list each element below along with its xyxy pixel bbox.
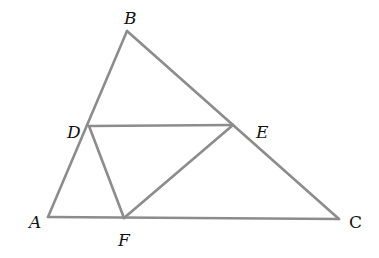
segment-DF	[89, 126, 124, 218]
vertex-label-b: B	[124, 10, 137, 27]
segment-EF	[124, 125, 233, 218]
vertex-label-c: C	[349, 214, 362, 231]
segment-AC	[48, 217, 339, 219]
segment-DE	[89, 125, 233, 126]
point-label-d: D	[67, 124, 81, 141]
diagram-canvas: B A C D E F	[0, 0, 379, 258]
triangle-figure	[0, 0, 379, 258]
point-label-f: F	[118, 232, 130, 249]
segment-AB	[48, 31, 127, 217]
point-label-e: E	[256, 124, 268, 141]
vertex-label-a: A	[29, 214, 41, 231]
